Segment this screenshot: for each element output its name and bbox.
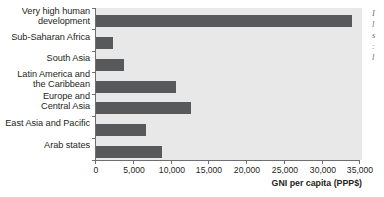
category-label: South Asia bbox=[47, 53, 90, 63]
x-axis-tick-label: 5,000 bbox=[123, 165, 145, 175]
x-axis-tick-label: 25,000 bbox=[272, 165, 298, 175]
x-axis-tick bbox=[359, 161, 360, 164]
y-axis-tick bbox=[92, 51, 95, 52]
margin-note-fragment: I l s : l bbox=[372, 8, 384, 63]
x-axis-line bbox=[95, 160, 360, 161]
x-axis-tick-label: 10,000 bbox=[159, 165, 185, 175]
x-axis-tick-label: 35,000 bbox=[347, 165, 373, 175]
category-label: Arab states bbox=[44, 140, 90, 150]
bar-south-asia bbox=[96, 59, 124, 71]
x-axis-tick bbox=[208, 161, 209, 164]
x-axis-tick bbox=[171, 161, 172, 164]
category-axis-labels: Very high human development Sub-Saharan … bbox=[0, 0, 92, 160]
bar-europe-and-central-asia bbox=[96, 102, 191, 114]
category-label: Europe and Central Asia bbox=[41, 91, 90, 111]
y-axis-tick bbox=[92, 8, 95, 9]
x-axis-tick bbox=[95, 161, 96, 164]
x-axis-title: GNI per capita (PPP$) bbox=[272, 178, 362, 188]
y-axis-tick bbox=[92, 29, 95, 30]
y-axis-line bbox=[95, 8, 96, 161]
category-label: Latin America and the Caribbean bbox=[17, 69, 90, 89]
x-axis-tick bbox=[322, 161, 323, 164]
x-axis-tick-label: 0 bbox=[94, 165, 99, 175]
bar-chart: Very high human development Sub-Saharan … bbox=[0, 0, 384, 197]
y-axis-tick bbox=[92, 72, 95, 73]
category-label: Very high human development bbox=[22, 6, 90, 26]
category-label: Sub-Saharan Africa bbox=[11, 32, 90, 42]
category-label: East Asia and Pacific bbox=[5, 118, 90, 128]
bar-arab-states bbox=[96, 146, 162, 158]
x-axis-tick bbox=[284, 161, 285, 164]
bar-very-high-human-development bbox=[96, 15, 352, 27]
y-axis-tick bbox=[92, 116, 95, 117]
bar-latin-america-and-the-caribbean bbox=[96, 81, 176, 93]
bar-sub-saharan-africa bbox=[96, 37, 113, 49]
x-axis-tick bbox=[133, 161, 134, 164]
bar-east-asia-and-pacific bbox=[96, 124, 146, 136]
x-axis-tick-label: 30,000 bbox=[310, 165, 336, 175]
x-axis-tick-label: 15,000 bbox=[196, 165, 222, 175]
plot-area bbox=[96, 8, 362, 160]
x-axis-tick bbox=[246, 161, 247, 164]
y-axis-tick bbox=[92, 94, 95, 95]
y-axis-tick bbox=[92, 138, 95, 139]
x-axis-tick-label: 20,000 bbox=[234, 165, 260, 175]
